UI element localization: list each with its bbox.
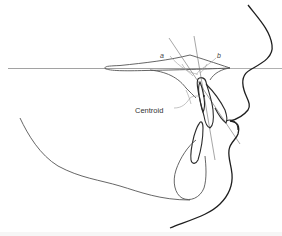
centroid-point [203,95,205,97]
upper-incisor-root [199,82,205,112]
angle-a-label: a [160,52,164,59]
upper-incisor-labial [206,84,227,123]
cephalometric-diagram: a b Centroid [0,0,282,236]
angle-b-label: b [217,52,221,59]
bottom-border-strip [0,232,282,236]
palatal-plane-outline [105,55,230,80]
soft-tissue-profile [170,5,272,228]
maxilla-lower-curve [150,70,196,98]
angle-a-arc [170,56,193,76]
mandible-outline [20,118,190,200]
incisor-long-axis-line [169,38,240,144]
centroid-label: Centroid [135,106,163,115]
